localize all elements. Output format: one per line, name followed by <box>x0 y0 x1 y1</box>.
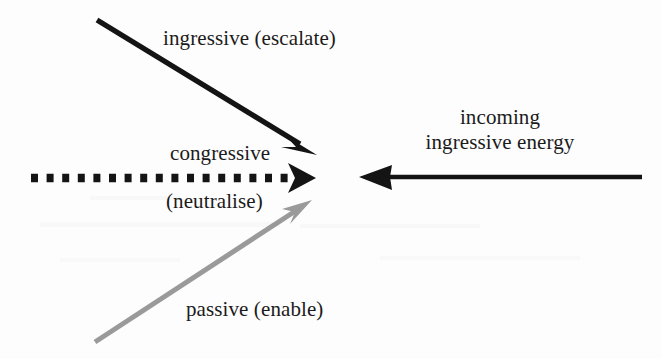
congressive-arrow-head <box>288 163 316 193</box>
passive-arrow-head <box>282 200 312 224</box>
incoming-energy-arrow <box>359 165 642 190</box>
scan-bleed-artifacts <box>40 196 580 262</box>
label-incoming-line2: ingressive energy <box>426 130 575 155</box>
passive-arrow-shaft <box>95 210 297 342</box>
label-incoming-ingressive-energy: incoming ingressive energy <box>426 105 575 155</box>
label-congressive: congressive <box>170 141 270 166</box>
diagram-canvas: ingressive (escalate) incoming ingressiv… <box>0 0 662 359</box>
ingressive-arrow-head <box>281 136 317 155</box>
label-passive-enable: passive (enable) <box>186 297 323 322</box>
incoming-energy-arrow-head <box>359 165 392 190</box>
label-ingressive-escalate: ingressive (escalate) <box>163 26 336 51</box>
label-neutralise: (neutralise) <box>166 189 263 214</box>
diagram-svg <box>0 0 662 359</box>
label-incoming-line1: incoming <box>426 105 575 130</box>
